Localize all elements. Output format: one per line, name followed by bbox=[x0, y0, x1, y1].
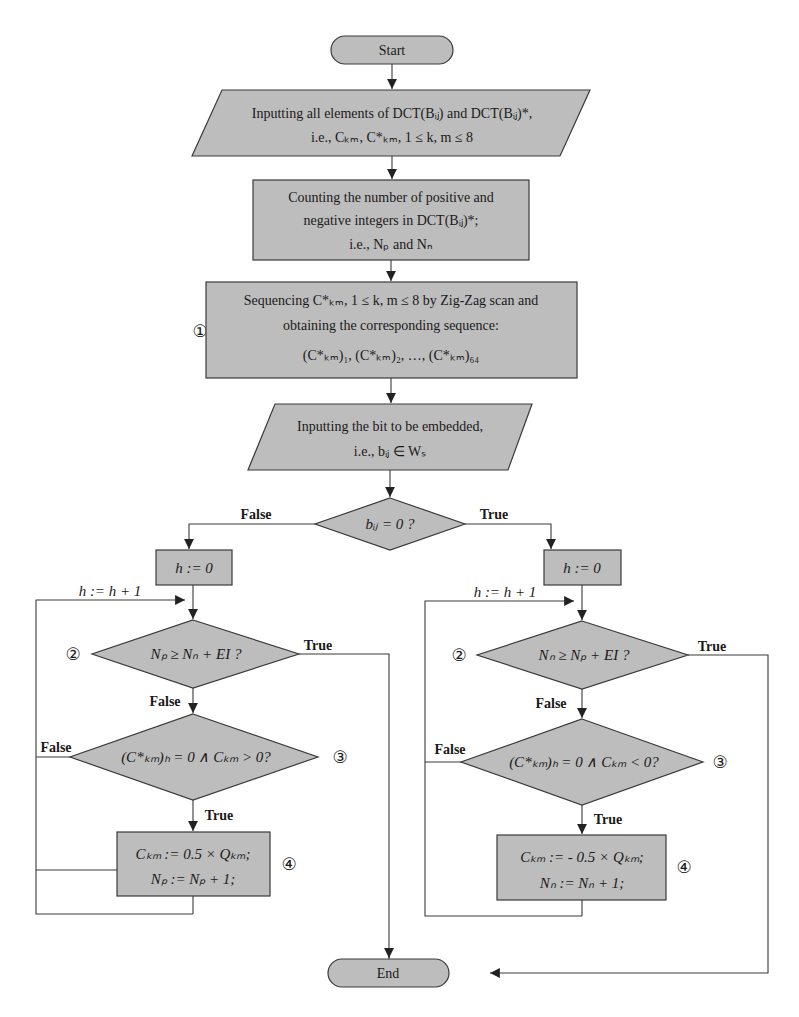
right-process-4: Cₖₘ := - 0.5 × Qₖₘ; Nₙ := Nₙ + 1; bbox=[497, 835, 666, 900]
right-process4-line1: Cₖₘ := - 0.5 × Qₖₘ; bbox=[520, 849, 644, 865]
zigzag-sequence-box: Sequencing C*ₖₘ, 1 ≤ k, m ≤ 8 by Zig-Zag… bbox=[206, 282, 577, 378]
right-decision2-true-label: True bbox=[698, 639, 727, 654]
count-line3: i.e., Nₚ and Nₙ bbox=[349, 237, 433, 252]
decision-bit-text: bᵢⱼ = 0 ? bbox=[365, 516, 415, 532]
left-step-marker-3: ③ bbox=[332, 747, 347, 767]
arrow-decision-false bbox=[189, 524, 315, 549]
right-step-marker-4: ④ bbox=[676, 857, 691, 877]
left-decision2-true-label: True bbox=[304, 638, 333, 653]
input-elements-line1: Inputting all elements of DCT(Bᵢⱼ) and D… bbox=[252, 106, 532, 122]
right-true-line-to-end bbox=[490, 655, 768, 973]
left-decision3-true-label: True bbox=[205, 808, 234, 823]
start-terminal: Start bbox=[331, 36, 453, 64]
sequence-line3: (C*ₖₘ)₁, (C*ₖₘ)₂, …, (C*ₖₘ)₆₄ bbox=[303, 348, 480, 364]
right-step-marker-2: ② bbox=[451, 645, 466, 665]
decision-bit-false-label: False bbox=[240, 507, 271, 522]
left-step-marker-4: ④ bbox=[281, 854, 296, 874]
input-elements-parallelogram: Inputting all elements of DCT(Bᵢⱼ) and D… bbox=[192, 90, 590, 156]
right-decision3-false-label: False bbox=[434, 742, 465, 757]
right-decision2-false-label: False bbox=[535, 696, 566, 711]
step-marker-1: ① bbox=[192, 321, 207, 341]
count-process-box: Counting the number of positive and nega… bbox=[253, 180, 529, 260]
end-label: End bbox=[377, 966, 400, 981]
left-process-4: Cₖₘ := 0.5 × Qₖₘ; Nₚ := Nₚ + 1; bbox=[117, 832, 270, 896]
left-init-box: h := 0 bbox=[156, 550, 232, 585]
decision-bit-zero: bᵢⱼ = 0 ? bbox=[315, 498, 465, 550]
input-bit-parallelogram: Inputting the bit to be embedded, i.e., … bbox=[248, 404, 532, 470]
left-step-marker-2: ② bbox=[65, 644, 80, 664]
left-decision2-false-label: False bbox=[149, 694, 180, 709]
right-process4-line2: Nₙ := Nₙ + 1; bbox=[539, 875, 625, 891]
right-step-marker-3: ③ bbox=[712, 752, 727, 772]
count-line1: Counting the number of positive and bbox=[288, 190, 494, 205]
sequence-line1: Sequencing C*ₖₘ, 1 ≤ k, m ≤ 8 by Zig-Zag… bbox=[244, 293, 538, 308]
count-line2: negative integers in DCT(Bᵢⱼ)*; bbox=[304, 213, 479, 229]
left-increment-label: h := h + 1 bbox=[79, 583, 142, 599]
arrow-decision-true bbox=[465, 524, 551, 549]
left-process4-line1: Cₖₘ := 0.5 × Qₖₘ; bbox=[136, 846, 251, 862]
start-label: Start bbox=[379, 43, 406, 58]
decision-bit-true-label: True bbox=[480, 507, 509, 522]
left-decision-3: (C*ₖₘ)ₕ = 0 ∧ Cₖₘ > 0? bbox=[70, 714, 318, 800]
right-increment-label: h := h + 1 bbox=[474, 584, 537, 600]
right-init-text: h := 0 bbox=[563, 560, 601, 576]
input-bit-line2: i.e., bᵢⱼ ∈ Wₛ bbox=[354, 444, 426, 459]
left-decision3-false-label: False bbox=[40, 740, 71, 755]
right-decision-2: Nₙ ≥ Nₚ + EI ? bbox=[477, 621, 688, 689]
sequence-line2: obtaining the corresponding sequence: bbox=[283, 318, 499, 333]
flowchart-canvas: Start Inputting all elements of DCT(Bᵢⱼ)… bbox=[0, 0, 799, 1017]
right-decision2-text: Nₙ ≥ Nₚ + EI ? bbox=[538, 647, 630, 663]
input-elements-line2: i.e., Cₖₘ, C*ₖₘ, 1 ≤ k, m ≤ 8 bbox=[311, 130, 473, 145]
left-decision-2: Nₚ ≥ Nₙ + EI ? bbox=[92, 620, 299, 688]
right-decision3-text: (C*ₖₘ)ₕ = 0 ∧ Cₖₘ < 0? bbox=[509, 754, 659, 771]
right-decision3-true-label: True bbox=[594, 812, 623, 827]
right-decision-3: (C*ₖₘ)ₕ = 0 ∧ Cₖₘ < 0? bbox=[461, 719, 703, 805]
left-decision2-text: Nₚ ≥ Nₙ + EI ? bbox=[150, 646, 242, 662]
left-process4-line2: Nₚ := Nₚ + 1; bbox=[150, 871, 236, 887]
left-true-line-to-end bbox=[299, 654, 389, 968]
left-init-text: h := 0 bbox=[175, 560, 213, 576]
end-terminal: End bbox=[328, 959, 449, 987]
left-decision3-text: (C*ₖₘ)ₕ = 0 ∧ Cₖₘ > 0? bbox=[121, 749, 271, 766]
right-init-box: h := 0 bbox=[544, 550, 621, 585]
input-bit-line1: Inputting the bit to be embedded, bbox=[297, 419, 483, 434]
